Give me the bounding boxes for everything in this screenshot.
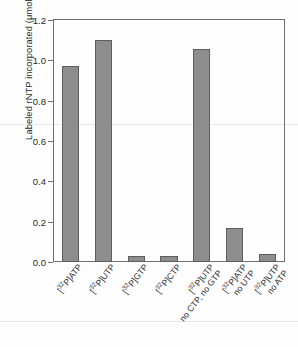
x-axis-tick-label: [32P]UTP: [88, 262, 117, 296]
bar-chart-figure: Labeled rNTP incorporated (μmol) 0.00.20…: [0, 0, 298, 347]
y-axis-tick-label: 0.2: [18, 216, 46, 227]
bars-container: [54, 20, 284, 262]
y-axis-tick-label: 0.4: [18, 176, 46, 187]
x-axis-tick-label: [32P]ATP: [56, 262, 85, 295]
x-axis-tick-labels: [32P]ATP[32P]UTP[32P]GTP[32P]CTP[32P]UTP…: [0, 262, 298, 347]
isotope-superscript: 32: [120, 281, 130, 291]
y-axis-tick-label: 1.2: [18, 15, 46, 26]
x-axis-tick-label: [32P]ATPno UTP: [220, 262, 257, 301]
bar: [226, 228, 243, 262]
x-label-line1: [32P]UTP: [88, 262, 117, 296]
y-axis-tick-label: 0.6: [18, 136, 46, 147]
y-axis-tick-label: 1.0: [18, 55, 46, 66]
x-axis-tick-label: [32P]GTP: [120, 262, 150, 296]
isotope-superscript: 32: [252, 281, 262, 291]
isotope-superscript: 32: [220, 280, 230, 290]
x-label-line1: [32P]ATP: [56, 262, 85, 295]
x-label-line1: [32P]CTP: [154, 262, 183, 296]
y-axis-tick-label: 0.8: [18, 95, 46, 106]
bar: [193, 49, 210, 262]
isotope-superscript: 32: [88, 281, 98, 291]
x-label-line1: [32P]GTP: [120, 262, 150, 296]
isotope-superscript: 32: [186, 281, 196, 291]
isotope-superscript: 32: [56, 280, 66, 290]
bar: [95, 40, 112, 262]
x-axis-tick-label: [32P]CTP: [154, 262, 183, 296]
x-axis-tick-label: [32P]UTPno ATP: [252, 262, 289, 302]
isotope-superscript: 32: [154, 281, 164, 291]
bar: [62, 66, 79, 262]
